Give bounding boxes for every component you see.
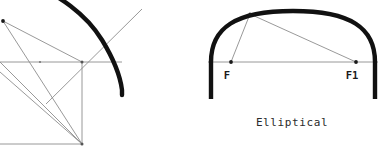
focus-label-f: F (224, 69, 230, 81)
figure-caption-elliptical: Elliptical (256, 116, 328, 129)
point-springing-mid (39, 61, 41, 63)
point-focus-f1 (354, 60, 358, 64)
point-on-curve (249, 13, 252, 16)
arch-diagram-sheet: F F1 Elliptical (0, 0, 388, 153)
arch-diagram-canvas: F F1 Elliptical (0, 0, 388, 153)
focus-label-f1: F1 (346, 69, 359, 81)
point-upper-left (1, 19, 5, 23)
canvas-background (0, 0, 388, 153)
point-focus-f (229, 60, 233, 64)
point-square-bottom-right-corner (81, 143, 84, 146)
point-square-top-right-corner (81, 61, 84, 64)
